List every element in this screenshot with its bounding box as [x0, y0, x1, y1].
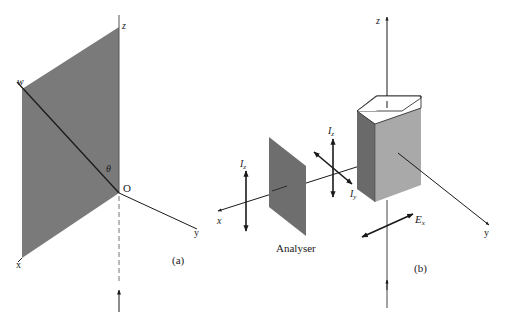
label-y-b: y	[484, 227, 489, 238]
polarization-diagram: z w θ O y x (a)	[0, 0, 507, 323]
caption-a: (a)	[172, 254, 185, 267]
crystal-side-face	[357, 111, 375, 202]
panel-b: z x y Iz Iz Iy Ex Analyser (b)	[216, 15, 489, 308]
label-Iz-mid: Iz	[327, 125, 334, 138]
crystal-front-face	[375, 108, 421, 202]
label-x-b: x	[216, 215, 222, 226]
label-z-b: z	[375, 15, 380, 26]
label-Iz-left: Iz	[239, 158, 246, 171]
panel-a: z w θ O y x (a)	[16, 15, 199, 312]
label-Iy-mid: Iy	[349, 188, 357, 201]
crystal-box	[357, 96, 421, 202]
polarization-plane	[22, 27, 119, 258]
y-axis-a	[119, 193, 197, 229]
label-w: w	[17, 76, 24, 87]
label-Ex: Ex	[414, 213, 426, 227]
label-z-a: z	[121, 20, 126, 31]
label-y-a: y	[194, 227, 199, 238]
caption-b: (b)	[414, 262, 427, 275]
label-origin: O	[123, 182, 131, 194]
analyser-plate	[269, 137, 306, 236]
label-theta: θ	[106, 163, 111, 174]
label-x-a: x	[16, 259, 21, 270]
analyser-label: Analyser	[276, 242, 316, 254]
